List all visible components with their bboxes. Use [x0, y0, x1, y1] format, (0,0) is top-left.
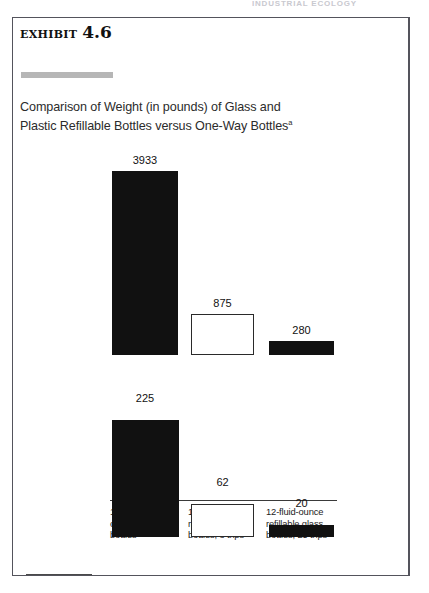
bar-chart2-0	[112, 420, 179, 537]
bar-chart1-2	[269, 341, 334, 355]
exhibit-number: 4.6	[82, 22, 112, 42]
exhibit-caption: Comparison of Weight (in pounds) of Glas…	[20, 98, 350, 136]
exhibit-page: INDUSTRIAL ECOLOGY exhibit4.6 Comparison…	[0, 0, 429, 593]
bar-chart-pet-bottles: 225 62 20 2-liter one- way PET bottles 2…	[0, 394, 429, 537]
caption-line-2: Plastic Refillable Bottles versus One-Wa…	[20, 119, 288, 133]
bar-chart-glass-bottles: 3933 875 280 12-fluid-ounce one-way glas…	[0, 155, 429, 355]
caption-line-1: Comparison of Weight (in pounds) of Glas…	[20, 100, 281, 114]
bar-value-chart2-0: 225	[112, 392, 178, 404]
exhibit-label: exhibit	[20, 24, 77, 42]
bar-chart2-1	[191, 504, 254, 537]
bar-value-chart2-2: 20	[269, 497, 334, 509]
footnote-rule	[26, 574, 92, 575]
bar-chart1-0	[112, 171, 178, 355]
bar-chart2-2	[269, 525, 334, 537]
bar-value-chart2-1: 62	[191, 476, 254, 488]
bar-value-chart1-2: 280	[269, 324, 334, 336]
bar-value-chart1-1: 875	[191, 297, 254, 309]
gray-rule-divider	[21, 72, 113, 78]
running-head: INDUSTRIAL ECOLOGY	[252, 0, 412, 8]
chart2-plot-area	[110, 409, 336, 537]
exhibit-heading: exhibit4.6	[20, 22, 112, 42]
bar-value-chart1-0: 3933	[112, 154, 178, 166]
caption-footnote-marker: a	[288, 118, 292, 127]
bar-chart1-1	[191, 314, 254, 355]
